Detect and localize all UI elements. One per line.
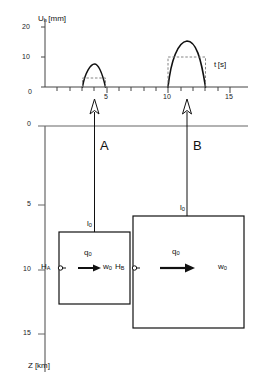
time-axis-symbol: t: [214, 60, 216, 69]
depth-axis-unit: [km]: [35, 361, 50, 370]
source-b-length-subscript: 0: [182, 206, 185, 212]
depth-tick-label-5: 5: [27, 200, 31, 207]
source-b-width-label: w0: [218, 263, 227, 272]
source-b-head-marker: [132, 266, 136, 270]
source-a-head-label: HA: [41, 263, 50, 272]
time-axis-ticks: [57, 87, 230, 93]
figure-canvas: [0, 0, 256, 388]
source-b-length-label: l0: [180, 204, 185, 213]
source-b-flux-label: q0: [172, 248, 180, 257]
depth-section-axes: [38, 126, 248, 372]
pulse-b-curve: [168, 41, 206, 87]
uplift-tick-10: 10: [22, 53, 30, 60]
source-box-b: [133, 216, 244, 328]
source-a-marker: A: [100, 139, 109, 152]
top-chart-axes: [41, 20, 248, 93]
uplift-axis-label: Uh[mm]: [38, 15, 66, 24]
source-b-flow-arrow: [160, 264, 195, 273]
source-a-width-label: w0: [103, 263, 112, 272]
geophysics-figure: Uh[mm] t[s] 20 10 0 5 10 15 0 5 10 15 Z[…: [0, 0, 256, 388]
uplift-axis-unit: [mm]: [48, 14, 66, 23]
pulse-a-curve: [83, 64, 106, 87]
source-b-flux-subscript: 0: [176, 250, 179, 256]
time-axis-unit: [s]: [218, 60, 226, 69]
source-a-flux-subscript: 0: [88, 251, 91, 257]
source-b-arrow: [183, 99, 192, 212]
source-a-arrow: [90, 99, 99, 228]
uplift-tick-0: 0: [28, 88, 32, 95]
depth-tick-label-0: 0: [27, 120, 31, 127]
source-a-width-subscript: 0: [109, 265, 112, 271]
uplift-axis-subscript: h: [44, 17, 47, 23]
source-a-length-label: l0: [87, 220, 92, 229]
depth-axis-symbol: Z: [28, 361, 33, 370]
depth-tick-label-10: 10: [23, 265, 31, 272]
source-a-head-marker: [58, 266, 62, 270]
source-b-width-subscript: 0: [224, 265, 227, 271]
source-b-marker: B: [193, 139, 202, 152]
source-a-flow-arrow: [78, 265, 101, 272]
depth-axis-label: Z[km]: [28, 362, 50, 370]
time-tick-15: 15: [225, 93, 233, 100]
time-axis-label: t[s]: [214, 61, 226, 69]
source-a-length-subscript: 0: [89, 222, 92, 228]
source-b-head-label: HB: [115, 263, 124, 272]
depth-tick-label-15: 15: [23, 329, 31, 336]
source-a-head-subscript: A: [47, 265, 51, 271]
time-tick-5: 5: [104, 93, 108, 100]
source-a-flux-label: q0: [84, 249, 92, 258]
time-tick-10: 10: [163, 93, 171, 100]
source-b-head-subscript: B: [121, 265, 125, 271]
uplift-tick-20: 20: [22, 23, 30, 30]
pulse-a-box-approximation: [83, 78, 106, 87]
